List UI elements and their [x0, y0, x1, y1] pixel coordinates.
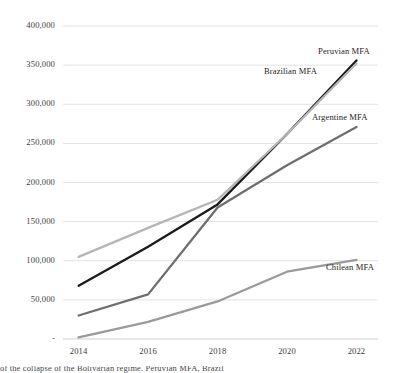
- series-line-brazilian-mfa: [79, 64, 357, 257]
- y-tick-label: 250,000: [26, 137, 55, 147]
- series-label-peruvian-mfa: Peruvian MFA: [318, 46, 370, 56]
- x-tick-label: 2016: [126, 346, 170, 356]
- x-tick-label: 2014: [57, 346, 101, 356]
- y-tick-label: 350,000: [26, 59, 55, 69]
- y-tick-label: 150,000: [26, 216, 55, 226]
- y-tick-label: 400,000: [26, 20, 55, 30]
- series-line-peruvian-mfa: [79, 60, 357, 285]
- x-tick-label: 2018: [196, 346, 240, 356]
- gridlines-group: [63, 26, 378, 300]
- series-lines-group: [79, 60, 357, 337]
- series-label-chilean-mfa: Chilean MFA: [326, 262, 374, 272]
- y-tick-label: 100,000: [26, 255, 55, 265]
- x-tick-label: 2020: [265, 346, 309, 356]
- x-tick-label: 2022: [334, 346, 378, 356]
- y-tick-label: 200,000: [26, 177, 55, 187]
- series-line-chilean-mfa: [79, 260, 357, 337]
- series-label-argentine-mfa: Argentine MFA: [312, 112, 368, 122]
- series-label-brazilian-mfa: Brazilian MFA: [264, 66, 317, 76]
- clipped-caption-text: of the collapse of the Bolivarian regime…: [0, 366, 398, 373]
- chart-figure: 400,000350,000300,000250,000200,000150,0…: [0, 0, 398, 373]
- y-tick-label: 300,000: [26, 98, 55, 108]
- y-tick-label: -: [52, 333, 55, 343]
- clipped-caption: of the collapse of the Bolivarian regime…: [0, 366, 398, 373]
- y-tick-label: 50,000: [31, 294, 55, 304]
